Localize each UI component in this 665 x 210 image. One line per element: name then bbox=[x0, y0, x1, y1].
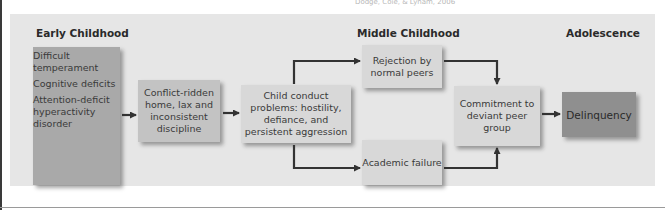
arrows-layer bbox=[0, 0, 665, 210]
bottom-border bbox=[0, 207, 665, 208]
arrow-rejection-to-commitment bbox=[444, 61, 497, 84]
arrow-academic-to-commitment bbox=[444, 148, 497, 168]
arrow-conduct-to-academic bbox=[294, 145, 360, 168]
arrow-conduct-to-rejection bbox=[294, 61, 360, 84]
